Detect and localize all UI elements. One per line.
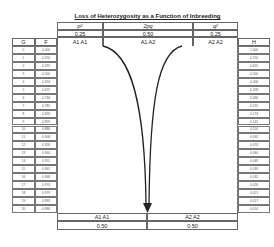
bottom-genotype-1: A2 A2	[147, 213, 238, 221]
bottom-genotype-0: A1 A1	[57, 213, 147, 221]
bottom-value-0: 0.50	[57, 221, 147, 230]
funnel-arrow-icon	[0, 0, 274, 247]
bottom-value-1: 0.50	[147, 221, 238, 230]
